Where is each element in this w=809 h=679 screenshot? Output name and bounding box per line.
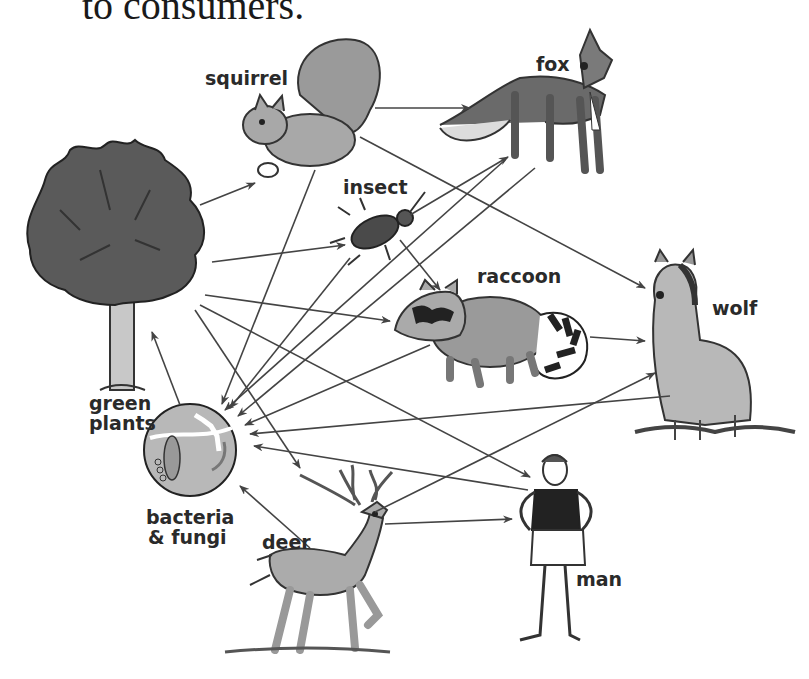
label-fox: fox <box>536 54 570 74</box>
label-deer: deer <box>262 532 311 552</box>
squirrel-illustration <box>243 39 380 177</box>
label-green-plants-line1: green <box>89 393 151 413</box>
label-raccoon: raccoon <box>477 266 561 286</box>
raccoon-illustration <box>395 280 587 384</box>
label-squirrel: squirrel <box>205 68 288 88</box>
bacteria-fungi-illustration <box>144 404 236 496</box>
fox-illustration <box>440 30 612 170</box>
label-bacteria-fungi-line1: bacteria <box>146 507 234 527</box>
wolf-illustration <box>635 250 795 440</box>
label-bacteria-fungi-line2: & fungi <box>148 527 227 547</box>
label-wolf: wolf <box>712 298 757 318</box>
deer-illustration <box>225 465 392 652</box>
food-web-diagram <box>0 0 809 679</box>
label-green-plants-line2: plants <box>89 413 156 433</box>
label-insect: insect <box>343 177 408 197</box>
man-illustration <box>520 455 591 640</box>
tree-illustration <box>27 140 204 390</box>
label-man: man <box>576 569 622 589</box>
